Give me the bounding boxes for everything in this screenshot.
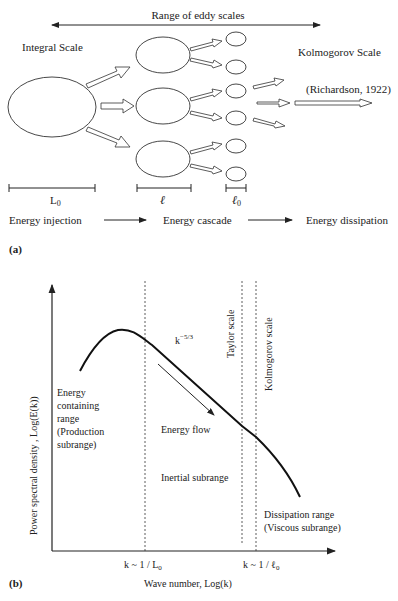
integral-scale-label: Integral Scale [22, 41, 83, 53]
turbulence-diagram: Range of eddy scales Integral Scale Kolm… [0, 0, 398, 601]
tick-ell0: k ~ 1 / ℓ0 [243, 559, 280, 572]
inertial-subrange-label: Inertial subrange [161, 472, 229, 483]
stage-dissipation: Energy dissipation [306, 214, 388, 226]
integral-eddy [8, 77, 96, 137]
slope-label: k−5/3 [175, 333, 193, 346]
stage-cascade: Energy cascade [163, 214, 232, 226]
range-label: Range of eddy scales [151, 9, 244, 21]
panel-b-label: (b) [9, 577, 23, 590]
stage-injection: Energy injection [9, 214, 82, 226]
panel-a-label: (a) [9, 243, 22, 256]
tick-L0: k ~ 1 / L0 [124, 559, 162, 572]
panel-b: k−5/3 Taylor scale Kolmogorov scale Ener… [9, 281, 341, 590]
scale-ell: ℓ [160, 193, 165, 207]
taylor-scale-label: Taylor scale [225, 309, 236, 358]
scale-ell0: ℓ0 [232, 193, 241, 208]
energy-containing-label: Energy containing range (Production subr… [57, 387, 107, 451]
dissipation-range-label: Dissipation range (Viscous subrange) [264, 509, 341, 534]
x-axis-label: Wave number, Log(k) [144, 578, 232, 590]
y-axis-label: Power spectral density , Log(E(k)) [28, 396, 40, 535]
scale-L0: L0 [50, 194, 61, 208]
kolmogorov-scale-label: Kolmogorov scale [263, 317, 274, 391]
kolmogorov-scale-label: Kolmogorov Scale [298, 46, 381, 58]
panel-a: Range of eddy scales Integral Scale Kolm… [8, 9, 391, 256]
citation: (Richardson, 1922) [306, 83, 391, 96]
energy-flow-arrow [158, 364, 214, 415]
energy-flow-label: Energy flow [161, 424, 211, 435]
